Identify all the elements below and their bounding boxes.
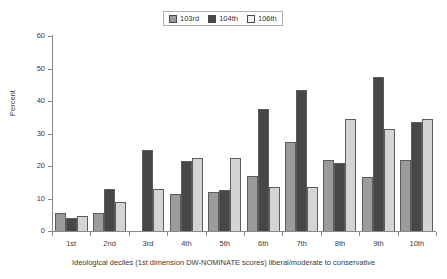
y-tick-label-50: 50 — [37, 65, 45, 73]
bar-group-10th — [398, 35, 436, 231]
bar-103rd-9th — [362, 177, 373, 231]
x-tick-label-5th: 5th — [220, 239, 230, 248]
chart-legend: 103rd 104th 106th — [163, 11, 283, 26]
plot-area: 0102030405060 1st2nd3rd4th5th6th7th8th9t… — [52, 35, 436, 232]
x-tick-label-8th: 8th — [335, 239, 345, 248]
bar-106th-5th — [230, 158, 241, 231]
bar-106th-6th — [269, 187, 280, 231]
x-tick-9 — [398, 232, 399, 236]
bar-106th-1st — [77, 216, 88, 231]
bar-104th-4th — [181, 161, 192, 231]
bar-group-3rd — [129, 35, 167, 231]
bar-104th-7th — [296, 90, 307, 231]
x-tick-label-7th: 7th — [296, 239, 306, 248]
bar-group-1st — [52, 35, 90, 231]
x-tick-1 — [90, 232, 91, 236]
bar-104th-10th — [411, 122, 422, 231]
bar-106th-7th — [307, 187, 318, 231]
legend-swatch-103rd — [169, 15, 177, 23]
bar-104th-5th — [219, 190, 230, 231]
y-axis-title: Percent — [9, 90, 17, 116]
bar-103rd-8th — [323, 160, 334, 232]
bar-103rd-10th — [400, 160, 411, 232]
bar-103rd-7th — [285, 142, 296, 231]
x-tick-label-4th: 4th — [181, 239, 191, 248]
x-tick-label-9th: 9th — [373, 239, 383, 248]
bar-group-4th — [167, 35, 205, 231]
x-tick-3 — [167, 232, 168, 236]
bar-106th-9th — [384, 129, 395, 231]
legend-swatch-104th — [208, 15, 216, 23]
bar-104th-6th — [258, 109, 269, 231]
bar-group-6th — [244, 35, 282, 231]
legend-label-103rd: 103rd — [180, 15, 199, 23]
bar-104th-8th — [334, 163, 345, 231]
legend-item-1: 104th — [208, 15, 238, 23]
x-tick-label-1st: 1st — [66, 239, 76, 248]
bar-103rd-6th — [247, 176, 258, 231]
y-tick-label-60: 60 — [37, 32, 45, 40]
bar-106th-4th — [192, 158, 203, 231]
bar-chart: 103rd 104th 106th Percent 0102030405060 … — [0, 0, 447, 279]
x-tick-6 — [282, 232, 283, 236]
bar-103rd-4th — [170, 194, 181, 231]
x-tick-8 — [359, 232, 360, 236]
x-tick-label-10th: 10th — [409, 239, 424, 248]
bar-106th-3rd — [153, 189, 164, 231]
bar-106th-2nd — [115, 202, 126, 231]
bar-106th-8th — [345, 119, 356, 231]
x-tick-7 — [321, 232, 322, 236]
y-tick-label-30: 30 — [37, 130, 45, 138]
bar-104th-1st — [66, 218, 77, 231]
y-tick-label-40: 40 — [37, 97, 45, 105]
x-axis-title: Ideological deciles (1st dimension DW-NO… — [0, 258, 447, 267]
y-tick-label-10: 10 — [37, 195, 45, 203]
x-tick-label-2nd: 2nd — [103, 239, 116, 248]
legend-item-0: 103rd — [169, 15, 199, 23]
x-tick-4 — [206, 232, 207, 236]
legend-label-104th: 104th — [219, 15, 238, 23]
bar-group-7th — [282, 35, 320, 231]
bar-group-8th — [321, 35, 359, 231]
x-tick-label-6th: 6th — [258, 239, 268, 248]
y-tick-label-20: 20 — [37, 162, 45, 170]
bar-104th-3rd — [142, 150, 153, 231]
bar-104th-2nd — [104, 189, 115, 231]
bar-group-5th — [206, 35, 244, 231]
bar-group-2nd — [90, 35, 128, 231]
bar-103rd-1st — [55, 213, 66, 231]
x-tick-10 — [436, 232, 437, 236]
bar-group-9th — [359, 35, 397, 231]
x-tick-2 — [129, 232, 130, 236]
y-tick-label-0: 0 — [41, 227, 45, 235]
x-tick-0 — [52, 232, 53, 236]
legend-item-2: 106th — [247, 15, 277, 23]
x-tick-5 — [244, 232, 245, 236]
bar-103rd-2nd — [93, 213, 104, 231]
legend-swatch-106th — [247, 15, 255, 23]
bar-104th-9th — [373, 77, 384, 231]
legend-label-106th: 106th — [258, 15, 277, 23]
bar-106th-10th — [422, 119, 433, 231]
x-tick-label-3rd: 3rd — [143, 239, 154, 248]
bar-103rd-5th — [208, 192, 219, 231]
